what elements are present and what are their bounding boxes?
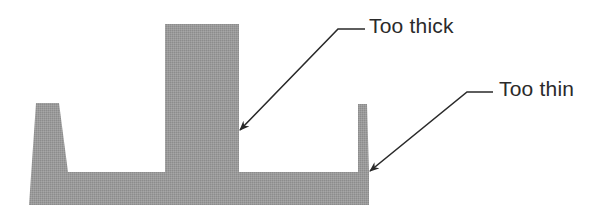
leader-line-thick (240, 29, 365, 130)
leader-line-thin (370, 92, 493, 171)
callout-too-thick: Too thick (369, 15, 454, 36)
callout-too-thin: Too thin (499, 78, 574, 99)
part-cross-section (29, 24, 369, 205)
diagram-canvas (0, 0, 615, 218)
wall-thickness-diagram: Too thick Too thin (0, 0, 615, 218)
